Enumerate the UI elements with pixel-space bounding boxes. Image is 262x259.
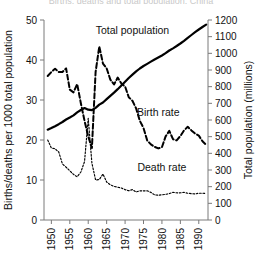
x-tick-label: 1990 (193, 228, 204, 251)
left-tick-label: 10 (26, 175, 38, 186)
right-tick-label: 400 (215, 148, 232, 159)
right-tick-label: 900 (215, 65, 232, 76)
right-tick-label: 0 (215, 215, 221, 226)
x-tick-label: 1980 (157, 228, 168, 251)
birth-rate-curve (48, 46, 206, 148)
left-tick-label: 40 (26, 55, 38, 66)
right-tick-label: 200 (215, 181, 232, 192)
left-tick-label: 0 (31, 215, 37, 226)
x-tick-label: 1985 (175, 228, 186, 251)
x-tick-label: 1955 (64, 228, 75, 251)
left-tick-label: 30 (26, 95, 38, 106)
death-rate-label: Death rate (137, 161, 186, 173)
dual-axis-line-chart: 01020304050 0100200300400500600700800900… (0, 0, 262, 259)
right-tick-label: 600 (215, 115, 232, 126)
x-axis: 195019551960196519701975198019851990 (44, 220, 208, 250)
left-tick-label: 20 (26, 135, 38, 146)
x-tick-label: 1965 (101, 228, 112, 251)
x-tick-label: 1960 (83, 228, 94, 251)
total-population-label: Total population (96, 24, 170, 36)
left-axis: 01020304050 (26, 15, 44, 226)
right-tick-label: 800 (215, 81, 232, 92)
x-tick-label: 1975 (138, 228, 149, 251)
series-annotations: Total populationBirth rateDeath rate (96, 24, 187, 173)
death-rate-curve (48, 118, 206, 195)
left-tick-label: 50 (26, 15, 38, 26)
right-tick-label: 1100 (215, 31, 237, 42)
x-tick-label: 1950 (46, 228, 57, 251)
left-axis-title: Births/deaths per 1000 total population (2, 30, 14, 210)
x-tick-label: 1970 (120, 228, 131, 251)
right-axis: 0100200300400500600700800900100011001200 (208, 15, 238, 226)
right-tick-label: 700 (215, 98, 232, 109)
chart-container: 01020304050 0100200300400500600700800900… (0, 0, 262, 259)
right-tick-label: 100 (215, 198, 232, 209)
right-axis-title: Total population (millions) (242, 61, 254, 179)
right-tick-label: 300 (215, 165, 232, 176)
total-population-curve (48, 25, 206, 130)
right-tick-label: 1000 (215, 48, 238, 59)
right-tick-label: 1200 (215, 15, 238, 26)
right-tick-label: 500 (215, 131, 232, 142)
birth-rate-label: Birth rate (137, 106, 180, 118)
